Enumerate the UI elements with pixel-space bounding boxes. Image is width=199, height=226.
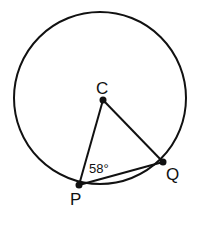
label-p: P (70, 190, 81, 209)
angle-label: 58° (89, 161, 109, 176)
point-p (76, 182, 83, 189)
label-c: C (96, 79, 108, 98)
label-q: Q (166, 165, 179, 184)
circle-diagram: C P Q 58° (0, 0, 199, 226)
segment-cq (103, 100, 163, 162)
